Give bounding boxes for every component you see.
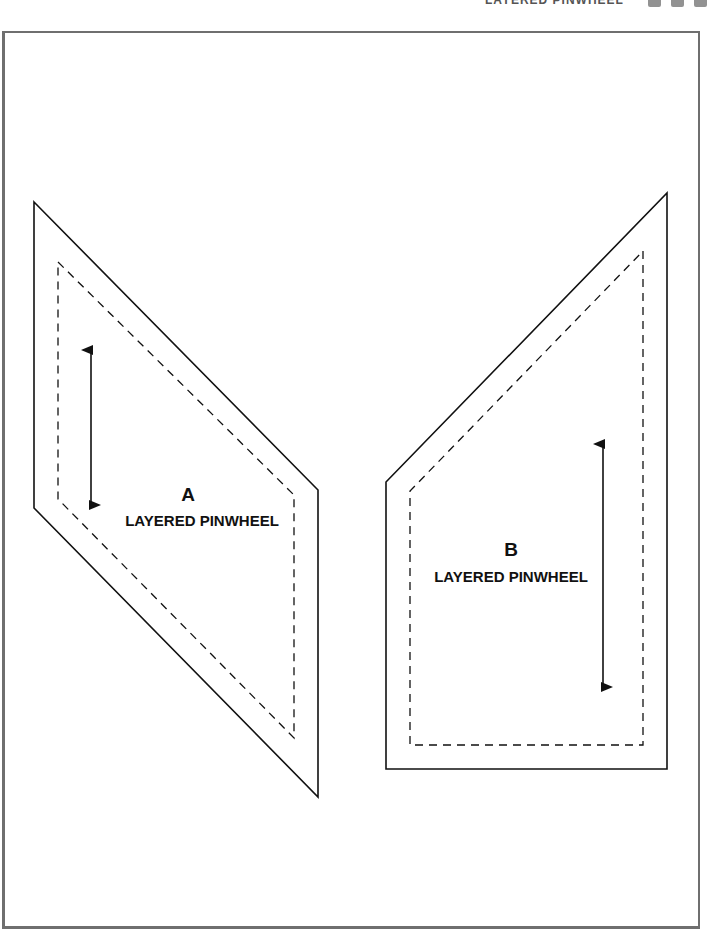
piece-b-letter: B	[504, 539, 518, 561]
cut-line-a	[34, 202, 318, 797]
piece-a-letter: A	[181, 484, 195, 506]
pattern-piece-b	[386, 193, 667, 769]
pattern-piece-a	[34, 202, 318, 797]
cut-line-b	[386, 193, 667, 769]
piece-b-name: LAYERED PINWHEEL	[434, 568, 588, 585]
piece-a-name: LAYERED PINWHEEL	[125, 512, 279, 529]
sew-line-b	[410, 251, 643, 745]
pattern-canvas	[0, 0, 726, 947]
sew-line-a	[58, 262, 294, 738]
